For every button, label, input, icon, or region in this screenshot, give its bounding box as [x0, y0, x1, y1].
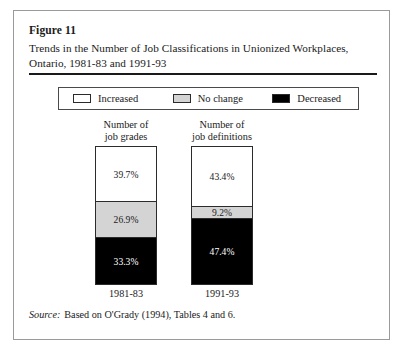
bar-segment-value: 26.9%	[114, 214, 139, 225]
bar-segment-value: 47.4%	[210, 246, 235, 257]
bar-segment-no-change: 26.9%	[96, 201, 156, 238]
chart-column-job-definitions: Number of job definitions 43.4% 9.2% 47.…	[160, 119, 284, 300]
stacked-bar-chart: Number of job grades 39.7% 26.9% 33.3% 1…	[14, 11, 391, 341]
column-header-line2: job definitions	[160, 131, 284, 143]
bar-segment-value: 43.4%	[210, 171, 235, 182]
bar-job-definitions: 43.4% 9.2% 47.4%	[191, 146, 253, 285]
source-text: Based on O'Grady (1994), Tables 4 and 6.	[64, 309, 235, 320]
figure-source: Source:Based on O'Grady (1994), Tables 4…	[29, 308, 235, 321]
bar-segment-decreased: 47.4%	[192, 219, 252, 284]
column-header-line1: Number of	[160, 119, 284, 131]
bar-segment-value: 9.2%	[212, 207, 232, 218]
bar-segment-increased: 39.7%	[96, 147, 156, 201]
bar-segment-decreased: 33.3%	[96, 238, 156, 284]
bar-segment-no-change: 9.2%	[192, 206, 252, 219]
bar-segment-value: 39.7%	[114, 169, 139, 180]
figure-frame: Figure 11 Trends in the Number of Job Cl…	[13, 10, 390, 340]
bar-job-grades: 39.7% 26.9% 33.3%	[95, 146, 157, 285]
bar-segment-value: 33.3%	[114, 256, 139, 267]
column-period-label-1991-93: 1991-93	[160, 288, 284, 300]
column-header-job-definitions: Number of job definitions	[160, 119, 284, 146]
source-label: Source:	[29, 309, 60, 320]
bar-segment-increased: 43.4%	[192, 147, 252, 206]
